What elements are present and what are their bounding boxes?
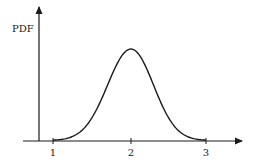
y-axis-label: PDF (12, 23, 34, 34)
pdf-chart: PDF 123 (0, 0, 255, 165)
x-tick-label: 3 (203, 147, 209, 158)
x-tick-label: 1 (50, 147, 56, 158)
pdf-curve (53, 49, 206, 140)
x-tick-label: 2 (128, 147, 134, 158)
